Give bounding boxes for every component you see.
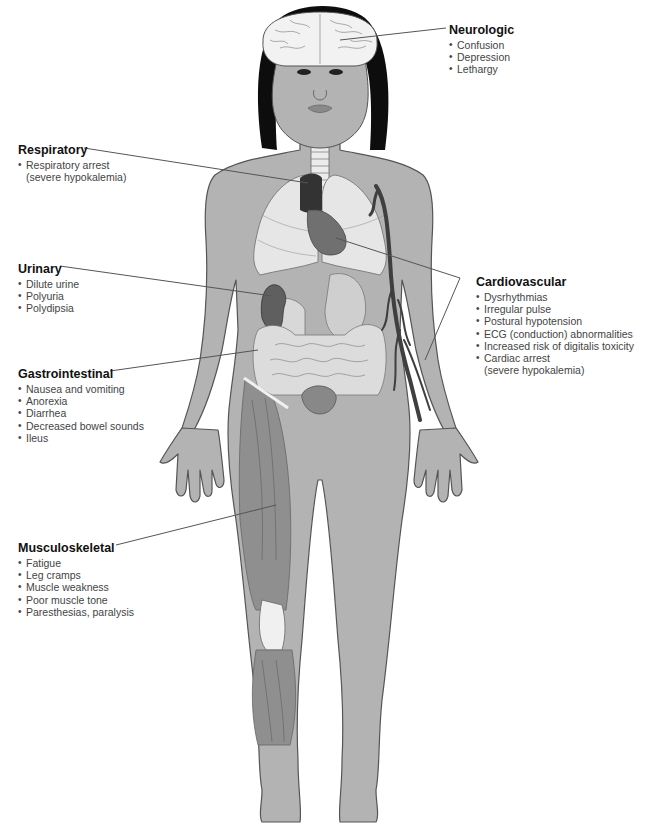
- label-neurologic: Neurologic •Confusion •Depression •Letha…: [449, 20, 514, 76]
- symptom-item: •Fatigue: [18, 557, 134, 569]
- symptom-list-neurologic: •Confusion •Depression •Lethargy: [449, 39, 514, 76]
- symptom-list-musculoskeletal: •Fatigue •Leg cramps •Muscle weakness •P…: [18, 557, 134, 618]
- symptom-item: •Diarrhea: [18, 407, 144, 419]
- symptom-item: •Poor muscle tone: [18, 594, 134, 606]
- symptom-item: •Polydipsia: [18, 302, 79, 314]
- symptom-item: •Dilute urine: [18, 278, 79, 290]
- symptom-item: •Paresthesias, paralysis: [18, 606, 134, 618]
- symptom-item: •Ileus: [18, 432, 144, 444]
- symptom-item: •Decreased bowel sounds: [18, 420, 144, 432]
- intestines: [253, 325, 386, 395]
- label-title-neurologic: Neurologic: [449, 23, 514, 38]
- symptom-item: •ECG (conduction) abnormalities: [476, 328, 634, 340]
- label-title-musculoskeletal: Musculoskeletal: [18, 541, 115, 556]
- symptom-item: •Muscle weakness: [18, 581, 134, 593]
- symptom-item: •Irregular pulse: [476, 303, 634, 315]
- symptom-list-respiratory: •Respiratory arrest(severe hypokalemia): [18, 159, 126, 183]
- symptom-item: •Depression: [449, 51, 514, 63]
- label-title-cardiovascular: Cardiovascular: [476, 275, 566, 290]
- symptom-item: •Leg cramps: [18, 569, 134, 581]
- symptom-list-cardiovascular: •Dysrhythmias •Irregular pulse •Postural…: [476, 291, 634, 376]
- symptom-item: •Nausea and vomiting: [18, 383, 144, 395]
- symptom-item: •Confusion: [449, 39, 514, 51]
- symptom-item: •Increased risk of digitalis toxicity: [476, 340, 634, 352]
- symptom-item: •Lethargy: [449, 63, 514, 75]
- symptom-item: •Polyuria: [18, 290, 79, 302]
- label-title-respiratory: Respiratory: [18, 143, 87, 158]
- label-urinary: Urinary •Dilute urine •Polyuria •Polydip…: [18, 259, 79, 315]
- brain: [263, 12, 377, 66]
- symptom-item: •Postural hypotension: [476, 315, 634, 327]
- symptom-item: •Dysrhythmias: [476, 291, 634, 303]
- face: [272, 60, 368, 148]
- label-title-gastrointestinal: Gastrointestinal: [18, 367, 113, 382]
- label-cardiovascular: Cardiovascular •Dysrhythmias •Irregular …: [476, 272, 634, 376]
- label-musculoskeletal: Musculoskeletal •Fatigue •Leg cramps •Mu…: [18, 538, 134, 618]
- kidney: [261, 285, 285, 330]
- label-gastrointestinal: Gastrointestinal •Nausea and vomiting •A…: [18, 364, 144, 444]
- label-title-urinary: Urinary: [18, 262, 62, 277]
- label-respiratory: Respiratory •Respiratory arrest(severe h…: [18, 140, 126, 183]
- symptom-list-urinary: •Dilute urine •Polyuria •Polydipsia: [18, 278, 79, 315]
- symptom-item: •Cardiac arrest(severe hypokalemia): [476, 352, 634, 376]
- symptom-item: •Anorexia: [18, 395, 144, 407]
- symptom-item: •Respiratory arrest(severe hypokalemia): [18, 159, 126, 183]
- symptom-list-gastrointestinal: •Nausea and vomiting •Anorexia •Diarrhea…: [18, 383, 144, 444]
